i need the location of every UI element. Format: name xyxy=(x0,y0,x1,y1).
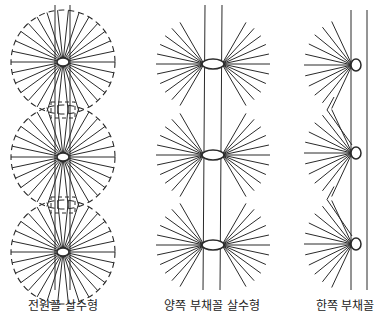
sprinkler-head-icon xyxy=(202,240,224,250)
spray-spoke-left xyxy=(160,64,204,84)
spray-spoke-left xyxy=(180,113,204,155)
sprinkler-head-icon xyxy=(57,153,69,161)
spray-spoke-right xyxy=(222,135,266,155)
spray-spoke-left xyxy=(180,64,204,106)
sprinkler-head-icon xyxy=(351,59,361,71)
spray-spoke-left xyxy=(180,155,204,197)
spray-spoke-right xyxy=(222,64,266,84)
spray-spoke-right xyxy=(222,44,266,64)
spray-spoke xyxy=(15,231,63,252)
sprinkler-pattern-diagram: 전원꼴 살수형 양쪽 부채꼴 살수형 한쪽 부채꼴 xyxy=(0,0,381,323)
spray-spoke-right xyxy=(222,64,246,106)
spray-spoke-left xyxy=(160,225,204,245)
caption-double-fan: 양쪽 부채꼴 살수형 xyxy=(164,296,260,313)
spray-spoke-left xyxy=(180,203,204,245)
spray-spoke-right xyxy=(222,245,266,265)
spray-spoke-left xyxy=(180,245,204,287)
caption-single-fan: 한쪽 부채꼴 xyxy=(316,296,375,313)
spray-spoke-right xyxy=(222,225,266,245)
sprinkler-head-icon xyxy=(351,238,361,250)
sprinkler-head-icon xyxy=(202,150,224,160)
sprinkler-head-icon xyxy=(57,58,69,66)
caption-full-circle: 전원꼴 살수형 xyxy=(28,296,98,313)
spray-spoke xyxy=(15,41,63,62)
spray-spoke-left xyxy=(160,44,204,64)
sprinkler-head-icon xyxy=(57,248,69,256)
spray-spoke-right xyxy=(222,22,246,64)
sprinkler-head-icon xyxy=(202,59,224,69)
spray-spoke-right xyxy=(222,155,246,197)
spray-spoke-right xyxy=(222,155,266,175)
spray-spoke-right xyxy=(222,203,246,245)
spray-spoke xyxy=(15,62,63,83)
spray-spoke xyxy=(15,136,63,157)
spray-spoke-left xyxy=(160,155,204,175)
spray-spoke-right xyxy=(222,113,246,155)
diagram-drawing xyxy=(0,0,381,323)
sprinkler-head-icon xyxy=(351,147,361,159)
spray-spoke-left xyxy=(180,22,204,64)
spray-spoke-left xyxy=(160,245,204,265)
spray-spoke xyxy=(15,157,63,178)
spray-spoke-left xyxy=(160,135,204,155)
spray-spoke xyxy=(15,252,63,273)
spray-spoke-right xyxy=(222,245,246,287)
